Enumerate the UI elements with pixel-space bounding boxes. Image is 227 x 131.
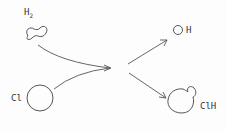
h2-reaction-curve: [38, 45, 110, 68]
clh-label: ClH: [200, 102, 216, 111]
h2-molecule-shape: [27, 26, 47, 39]
cl-reaction-curve: [54, 68, 110, 89]
h2-label: H2: [24, 8, 33, 17]
arrow-to-clh: [129, 73, 166, 98]
cl-label: Cl: [11, 94, 22, 103]
cl-atom-shape: [27, 85, 53, 111]
reaction-diagram: H2 Cl H ClH: [0, 0, 227, 131]
diagram-graphics: [0, 0, 227, 131]
h-atom-shape: [174, 26, 183, 35]
arrow-to-h: [128, 40, 167, 64]
h2-label-subscript: 2: [29, 12, 33, 19]
h-label: H: [186, 26, 191, 35]
clh-molecule-shape: [168, 87, 196, 113]
